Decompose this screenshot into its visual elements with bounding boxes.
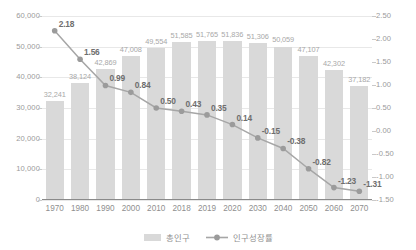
line-data-point[interactable] xyxy=(128,90,134,96)
line-value-label: -0.15 xyxy=(262,126,280,136)
legend-item-growth-rate[interactable]: 인구성장률 xyxy=(206,228,273,246)
line-value-label: -1.23 xyxy=(338,176,356,186)
right-axis-tick-mark xyxy=(372,39,376,40)
x-axis-line xyxy=(42,199,372,200)
right-axis-tick-mark xyxy=(372,16,376,17)
right-axis-tick-label: -1.00 xyxy=(376,172,416,181)
line-value-label: 0.99 xyxy=(109,73,125,83)
line-value-label: -0.82 xyxy=(313,157,331,167)
x-axis-tick-label: 2019 xyxy=(194,204,219,213)
gridline xyxy=(42,200,372,201)
left-axis-tick-label: 10,000 xyxy=(0,164,40,173)
right-axis-tick-mark xyxy=(372,131,376,132)
x-axis-tick-label: 2010 xyxy=(144,204,169,213)
right-axis-tick-label: -0.50 xyxy=(376,149,416,158)
line-data-point[interactable] xyxy=(331,185,337,191)
right-axis-tick-label: -1.50 xyxy=(376,195,416,204)
line-data-point[interactable] xyxy=(52,28,58,34)
line-data-point[interactable] xyxy=(153,105,159,111)
line-value-label: -0.38 xyxy=(287,136,305,146)
x-axis-tick-label: 2030 xyxy=(245,204,270,213)
x-axis-tick-label: 2018 xyxy=(169,204,194,213)
line-value-label: 1.56 xyxy=(84,47,100,57)
legend-item-total-population[interactable]: 총인구 xyxy=(144,231,190,243)
right-axis-tick-label: 2.50 xyxy=(376,11,416,20)
line-data-point[interactable] xyxy=(280,146,286,152)
right-axis-tick-label: 2.00 xyxy=(376,34,416,43)
right-axis-tick-mark xyxy=(372,62,376,63)
left-axis-tick-label: 0 xyxy=(0,195,40,204)
line-data-point[interactable] xyxy=(255,135,261,141)
right-axis-tick-label: 0.50 xyxy=(376,103,416,112)
x-axis-tick-label: 2050 xyxy=(296,204,321,213)
line-series-인구성장률 xyxy=(42,16,372,200)
growth-rate-line xyxy=(55,31,360,192)
line-data-point[interactable] xyxy=(306,166,312,172)
line-data-point[interactable] xyxy=(77,56,83,62)
x-axis-tick-label: 2070 xyxy=(347,204,372,213)
line-marker-swatch-icon xyxy=(206,228,228,246)
line-value-label: 0.14 xyxy=(236,113,252,123)
bar-swatch-icon xyxy=(144,234,161,241)
left-axis-tick-label: 60,000 xyxy=(0,11,40,20)
x-axis-tick-label: 2020 xyxy=(220,204,245,213)
line-value-label: 0.35 xyxy=(211,103,227,113)
legend-label-growth-rate: 인구성장률 xyxy=(233,231,273,243)
legend-label-total-population: 총인구 xyxy=(166,231,190,243)
right-axis-tick-label: 0.00 xyxy=(376,126,416,135)
line-value-label: 2.18 xyxy=(59,19,75,29)
x-axis-tick-label: 1970 xyxy=(42,204,67,213)
line-data-point[interactable] xyxy=(179,108,185,114)
right-axis-tick-mark xyxy=(372,154,376,155)
line-data-point[interactable] xyxy=(103,83,109,89)
line-value-label: 0.43 xyxy=(186,99,202,109)
right-axis-tick-mark xyxy=(372,108,376,109)
left-axis-tick-label: 20,000 xyxy=(0,134,40,143)
x-axis-label-group: 1970198019902000201020182019202020302040… xyxy=(42,204,372,220)
right-axis-tick-mark xyxy=(372,200,376,201)
line-value-label: -1.31 xyxy=(363,179,381,189)
right-axis-tick-mark xyxy=(372,85,376,86)
left-axis-tick-label: 30,000 xyxy=(0,103,40,112)
left-axis-tick-label: 50,000 xyxy=(0,42,40,51)
right-axis-tick-label: 1.50 xyxy=(376,57,416,66)
population-combo-chart: 010,00020,00030,00040,00050,00060,000 -1… xyxy=(0,0,416,250)
x-axis-tick-label: 2040 xyxy=(270,204,295,213)
right-axis-tick-mark xyxy=(372,177,376,178)
x-axis-tick-label: 1990 xyxy=(93,204,118,213)
line-data-point[interactable] xyxy=(230,122,236,128)
x-axis-tick-label: 2000 xyxy=(118,204,143,213)
line-data-point[interactable] xyxy=(204,112,210,118)
x-axis-tick-label: 1980 xyxy=(67,204,92,213)
line-value-label: 0.84 xyxy=(135,80,151,90)
line-value-label: 0.50 xyxy=(160,96,176,106)
chart-legend: 총인구 인구성장률 xyxy=(0,228,416,246)
right-axis-tick-label: 1.00 xyxy=(376,80,416,89)
plot-area: 32,24138,12442,86947,00849,55451,58551,7… xyxy=(42,16,372,200)
line-data-point[interactable] xyxy=(357,188,363,194)
x-axis-tick-label: 2060 xyxy=(321,204,346,213)
left-axis-tick-label: 40,000 xyxy=(0,72,40,81)
